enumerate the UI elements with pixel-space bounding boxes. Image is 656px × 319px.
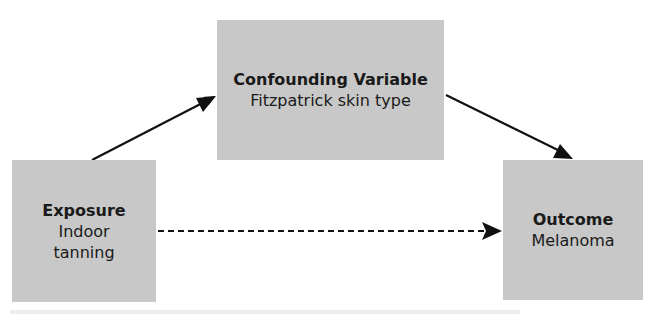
outcome-title: Outcome	[533, 209, 614, 230]
outcome-node: Outcome Melanoma	[503, 160, 643, 300]
arrowhead-outcome-dashed	[482, 222, 502, 240]
confounder-node: Confounding Variable Fitzpatrick skin ty…	[217, 20, 444, 160]
arrow-confounder-to-outcome	[446, 95, 568, 155]
bottom-divider	[10, 310, 520, 314]
confounder-label: Fitzpatrick skin type	[250, 90, 411, 111]
arrowhead-outcome	[553, 144, 573, 159]
outcome-label: Melanoma	[531, 230, 614, 251]
arrow-exposure-to-confounder	[92, 97, 214, 160]
exposure-node: Exposure Indoor tanning	[12, 160, 156, 302]
exposure-label: Indoor tanning	[39, 221, 129, 263]
arrowhead-confounder	[196, 96, 216, 112]
confounder-title: Confounding Variable	[233, 69, 427, 90]
exposure-title: Exposure	[42, 200, 125, 221]
